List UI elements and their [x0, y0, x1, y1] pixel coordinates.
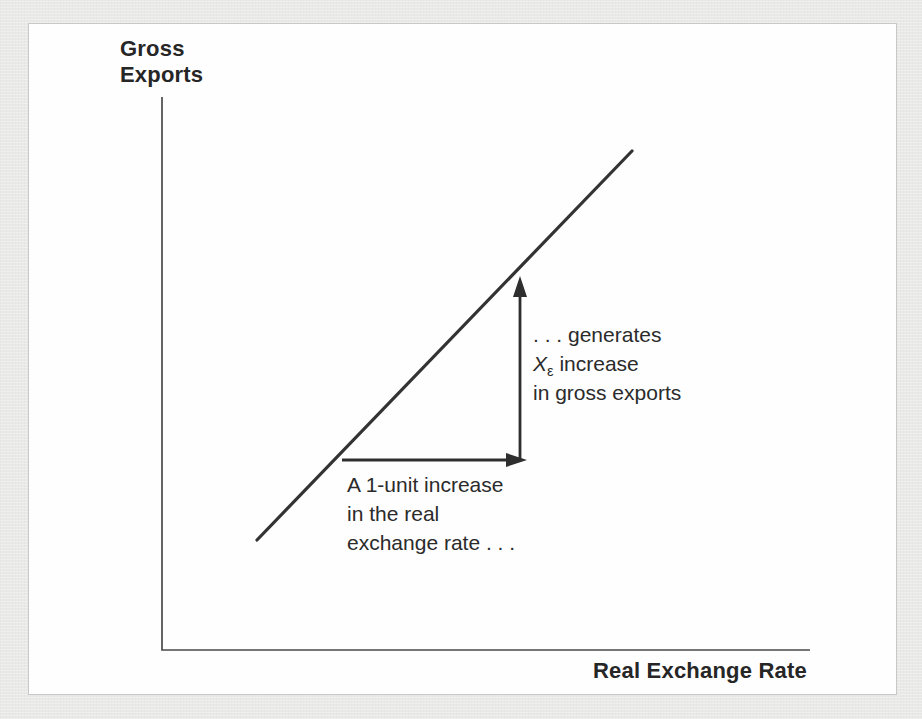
- annotation-vertical-line2-rest: increase: [554, 352, 639, 375]
- y-axis-label-line1: Gross: [120, 36, 203, 62]
- y-axis-label: Gross Exports: [120, 36, 203, 88]
- annotation-vertical-arrow: . . . generates Xε increase in gross exp…: [533, 320, 681, 407]
- y-axis-label-line2: Exports: [120, 62, 203, 88]
- annotation-horizontal-line1: A 1-unit increase: [347, 470, 515, 499]
- annotation-horizontal-line2: in the real: [347, 499, 515, 528]
- annotation-horizontal-arrow: A 1-unit increase in the real exchange r…: [347, 470, 515, 557]
- x-axis-label: Real Exchange Rate: [593, 658, 807, 684]
- variable-x: X: [533, 352, 547, 375]
- annotation-vertical-line1: . . . generates: [533, 320, 681, 349]
- scanned-page-background: Gross Exports Real Exchange Rate . . . g…: [0, 0, 922, 719]
- horizontal-arrowhead-icon: [506, 453, 527, 467]
- annotation-vertical-line2: Xε increase: [533, 349, 681, 378]
- vertical-arrowhead-icon: [513, 276, 527, 297]
- annotation-horizontal-line3: exchange rate . . .: [347, 528, 515, 557]
- chart-graphics: [0, 0, 922, 719]
- axes: [162, 97, 810, 650]
- annotation-vertical-line3: in gross exports: [533, 378, 681, 407]
